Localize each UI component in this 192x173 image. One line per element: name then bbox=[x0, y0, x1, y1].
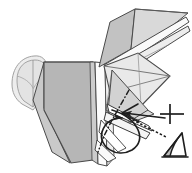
origami-diagram bbox=[0, 0, 192, 173]
origami-diagram-canvas bbox=[0, 0, 192, 173]
